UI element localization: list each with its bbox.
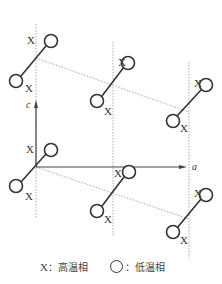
low-temp-circle (91, 95, 104, 108)
high-temp-marker: X (118, 56, 126, 68)
high-temp-marker: X (26, 143, 34, 155)
low-temp-circle (91, 205, 104, 218)
high-temp-marker: X (194, 187, 202, 199)
low-temp-circle (167, 115, 180, 128)
legend-circle-icon (110, 260, 123, 273)
legend: X ： 高温相 ： 低温相 (40, 259, 165, 274)
high-temp-marker: X (25, 82, 33, 94)
low-temp-circle (10, 180, 23, 193)
high-temp-marker: X (114, 167, 122, 179)
crystal-structure-diagram: c a (0, 0, 222, 284)
legend-high-temp-label: 高温相 (58, 259, 88, 274)
low-temp-circle (123, 166, 136, 179)
c-axis-arrowhead (34, 100, 38, 108)
high-temp-marker: X (194, 77, 202, 89)
a-axis-label: a (192, 161, 197, 172)
high-temp-marker: X (27, 34, 35, 46)
low-temp-circle (10, 75, 23, 88)
high-temp-marker: X (104, 105, 112, 117)
legend-x-separator: ： (48, 259, 58, 274)
molecule-bottom-2 (91, 166, 136, 218)
legend-low-temp-label: 低温相 (135, 259, 165, 274)
legend-circle-separator: ： (125, 259, 135, 274)
low-temp-circle (45, 35, 58, 48)
high-temp-marker: X (25, 190, 33, 202)
high-temp-marker: X (104, 213, 112, 225)
legend-x-symbol: X (40, 261, 48, 273)
high-temp-marker: X (180, 234, 188, 246)
high-temp-marker: X (180, 122, 188, 134)
low-temp-circle (167, 226, 180, 239)
low-temp-circle (45, 144, 58, 157)
a-axis-arrowhead (179, 165, 187, 169)
c-axis-label: c (26, 99, 31, 110)
